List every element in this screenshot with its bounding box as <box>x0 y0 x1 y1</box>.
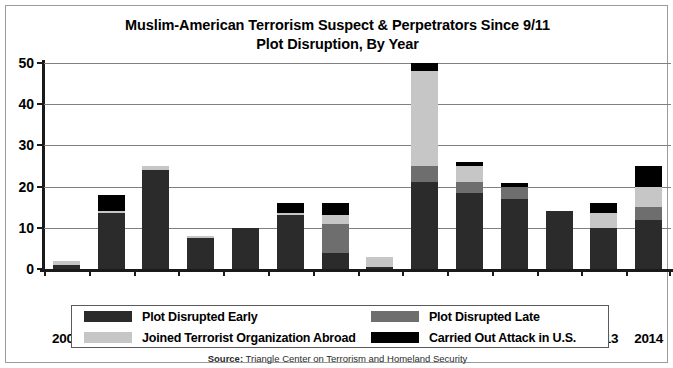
chart-title-line-1: Muslim-American Terrorism Suspect & Perp… <box>6 16 669 35</box>
bar-segment-2007-series-4[interactable] <box>322 203 349 215</box>
bar-segment-2007-series-2[interactable] <box>322 224 349 253</box>
legend-row-1: Plot Disrupted Early Plot Disrupted Late <box>72 306 608 327</box>
y-tick-mark-0 <box>37 268 43 270</box>
x-tick-mark-2009 <box>402 271 404 276</box>
legend-swatch-joined-terrorist-organization-abroad <box>84 332 132 343</box>
legend-row-2: Joined Terrorist Organization Abroad Car… <box>72 327 608 348</box>
bar-segment-2013-series-3[interactable] <box>590 213 617 227</box>
bar-segment-2013-series-1[interactable] <box>590 228 617 269</box>
y-tick-label-20: 20 <box>18 179 34 195</box>
bar-segment-2014-series-2[interactable] <box>635 207 662 219</box>
x-axis-label-2014: 2014 <box>626 331 671 346</box>
bar-segment-2009-series-1[interactable] <box>411 182 438 269</box>
bar-segment-2011-series-4[interactable] <box>501 183 528 187</box>
x-tick-mark-2011 <box>492 271 494 276</box>
bar-segment-2002-series-1[interactable] <box>98 213 125 269</box>
bar-segment-2011-series-2[interactable] <box>501 187 528 199</box>
bar-segment-2010-series-1[interactable] <box>456 193 483 269</box>
bar-segment-2003-series-1[interactable] <box>142 170 169 269</box>
bar-segment-2006-series-4[interactable] <box>277 203 304 213</box>
bar-segment-2006-series-3[interactable] <box>277 213 304 215</box>
bar-group-2014[interactable] <box>635 63 662 269</box>
bar-group-2005[interactable] <box>232 63 259 269</box>
bar-group-2006[interactable] <box>277 63 304 269</box>
legend-swatch-carried-out-attack-in-us <box>371 332 419 343</box>
bar-group-2007[interactable] <box>322 63 349 269</box>
bar-group-2001[interactable] <box>53 63 80 269</box>
bar-segment-2010-series-3[interactable] <box>456 166 483 182</box>
bar-group-2002[interactable] <box>98 63 125 269</box>
legend-item-plot-disrupted-late: Plot Disrupted Late <box>363 306 608 327</box>
y-tick-label-40: 40 <box>18 96 34 112</box>
source-note: Source: Triangle Center on Terrorism and… <box>6 353 669 364</box>
legend-label-carried-out-attack-in-us: Carried Out Attack in U.S. <box>429 331 576 345</box>
x-tick-mark-2014 <box>626 271 628 276</box>
source-label: Source: <box>208 353 243 364</box>
bar-segment-2005-series-1[interactable] <box>232 228 259 269</box>
y-tick-mark-30 <box>37 144 43 146</box>
x-tick-mark-2004 <box>178 271 180 276</box>
bar-segment-2002-series-3[interactable] <box>98 211 125 213</box>
y-tick-mark-40 <box>37 103 43 105</box>
chart-title-line-2: Plot Disruption, By Year <box>6 35 669 54</box>
x-tick-mark-2003 <box>134 271 136 276</box>
legend-label-plot-disrupted-early: Plot Disrupted Early <box>142 310 257 324</box>
x-tick-mark-2005 <box>223 271 225 276</box>
bar-group-2012[interactable] <box>546 63 573 269</box>
bar-segment-2004-series-3[interactable] <box>187 236 214 238</box>
bar-segment-2007-series-1[interactable] <box>322 253 349 269</box>
chart-figure: Muslim-American Terrorism Suspect & Perp… <box>0 0 673 368</box>
bar-segment-2014-series-4[interactable] <box>635 166 662 187</box>
x-tick-mark-2008 <box>358 271 360 276</box>
x-tick-mark-2007 <box>313 271 315 276</box>
y-tick-label-30: 30 <box>18 137 34 153</box>
bar-segment-2004-series-1[interactable] <box>187 238 214 269</box>
bar-segment-2006-series-1[interactable] <box>277 215 304 269</box>
bar-group-2013[interactable] <box>590 63 617 269</box>
x-tick-mark-2010 <box>447 271 449 276</box>
bar-segment-2009-series-2[interactable] <box>411 166 438 182</box>
bar-segment-2014-series-3[interactable] <box>635 187 662 208</box>
bar-segment-2011-series-1[interactable] <box>501 199 528 269</box>
bar-group-2010[interactable] <box>456 63 483 269</box>
bar-segment-2010-series-2[interactable] <box>456 182 483 192</box>
figure-border: Muslim-American Terrorism Suspect & Perp… <box>5 5 668 363</box>
bar-segment-2013-series-4[interactable] <box>590 203 617 213</box>
bar-segment-2014-series-1[interactable] <box>635 220 662 269</box>
bar-segment-2010-series-4[interactable] <box>456 162 483 166</box>
bar-segment-2002-series-4[interactable] <box>98 195 125 211</box>
bar-group-2011[interactable] <box>501 63 528 269</box>
legend-label-plot-disrupted-late: Plot Disrupted Late <box>429 310 540 324</box>
legend-swatch-plot-disrupted-late <box>371 311 419 322</box>
bar-segment-2012-series-1[interactable] <box>546 211 573 269</box>
y-tick-label-50: 50 <box>18 55 34 71</box>
bar-group-2004[interactable] <box>187 63 214 269</box>
bar-segment-2008-series-1[interactable] <box>366 267 393 269</box>
bar-segment-2001-series-1[interactable] <box>53 265 80 269</box>
legend: Plot Disrupted Early Plot Disrupted Late… <box>71 305 609 348</box>
y-tick-label-0: 0 <box>26 261 34 277</box>
y-tick-mark-10 <box>37 227 43 229</box>
bar-segment-2009-series-3[interactable] <box>411 71 438 166</box>
bar-segment-2007-series-3[interactable] <box>322 215 349 223</box>
chart-title: Muslim-American Terrorism Suspect & Perp… <box>6 16 669 54</box>
y-tick-mark-50 <box>37 62 43 64</box>
y-tick-label-10: 10 <box>18 220 34 236</box>
bar-group-2003[interactable] <box>142 63 169 269</box>
plot-area: 01020304050 2001200220032004200520062007… <box>44 63 671 269</box>
legend-swatch-plot-disrupted-early <box>84 311 132 322</box>
bars-layer <box>44 63 671 269</box>
x-tick-mark-end <box>669 271 671 276</box>
bar-segment-2009-series-4[interactable] <box>411 63 438 71</box>
bar-group-2009[interactable] <box>411 63 438 269</box>
x-tick-mark-2002 <box>89 271 91 276</box>
legend-item-carried-out-attack-in-us: Carried Out Attack in U.S. <box>363 327 608 348</box>
source-text: Triangle Center on Terrorism and Homelan… <box>243 353 467 364</box>
bar-segment-2003-series-3[interactable] <box>142 166 169 170</box>
y-tick-mark-20 <box>37 186 43 188</box>
x-tick-mark-2012 <box>537 271 539 276</box>
bar-group-2008[interactable] <box>366 63 393 269</box>
legend-item-plot-disrupted-early: Plot Disrupted Early <box>72 306 363 327</box>
bar-segment-2001-series-3[interactable] <box>53 261 80 265</box>
bar-segment-2008-series-3[interactable] <box>366 257 393 267</box>
